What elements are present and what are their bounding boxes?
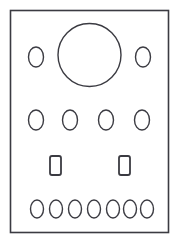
oval-row4-5: [107, 200, 120, 218]
slot-left: [50, 156, 61, 175]
oval-row4-6: [124, 200, 137, 218]
large-center-hole: [58, 24, 121, 87]
oval-row4-2: [50, 200, 63, 218]
oval-row2-3: [99, 110, 114, 130]
oval-row4-7: [141, 200, 154, 218]
oval-row2-4: [135, 110, 150, 130]
oval-row1-left: [29, 47, 44, 67]
oval-row2-1: [29, 110, 44, 130]
shapes-layer: [11, 11, 169, 233]
drawing-canvas: [0, 0, 179, 244]
slot-right: [119, 156, 130, 175]
panel-drawing: [0, 0, 179, 244]
oval-row1-right: [136, 47, 151, 67]
oval-row2-2: [63, 110, 78, 130]
oval-row4-3: [69, 200, 82, 218]
oval-row4-1: [31, 200, 44, 218]
oval-row4-4: [88, 200, 101, 218]
